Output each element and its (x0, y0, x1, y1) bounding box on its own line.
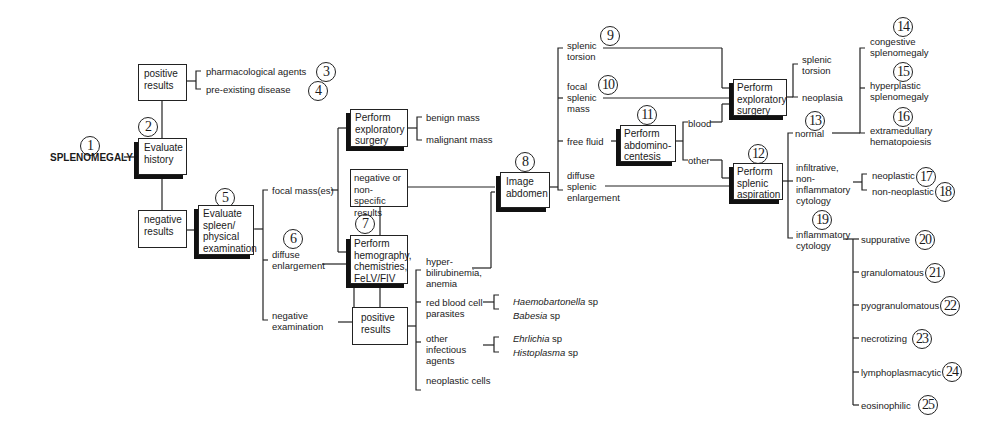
step-number-18: 18 (935, 182, 955, 202)
step-number-23: 23 (912, 329, 932, 349)
hemography-box: Perform hemography, chemistries, FeLV/FI… (350, 235, 408, 284)
extramedullary-hematopoiesis-label: extramedullary hematopoiesis (870, 125, 935, 147)
history-positive-box: positive results (138, 64, 187, 101)
evaluate-spleen-label: Evaluate spleen/ physical examination (203, 208, 257, 254)
step-number-17: 17 (916, 167, 936, 187)
congestive-splenomegaly-label: congestive splenomegaly (870, 36, 930, 58)
history-positive-label: positive results (144, 68, 178, 91)
diffuse-splenic-enlargement-label: diffuse splenic enlargement (567, 170, 607, 203)
evaluate-spleen-box: Evaluate spleen/ physical examination (198, 205, 254, 255)
ehrlichia-sp: sp (552, 333, 562, 344)
hyperplastic-splenomegaly-label: hyperplastic splenomegaly (870, 80, 930, 102)
exploratory-surgery-2-label: Perform exploratory surgery (737, 82, 786, 116)
focal-splenic-mass-label: focal splenic mass (567, 81, 603, 114)
image-abdomen-box: Image abdomen (500, 172, 550, 208)
neoplastic-cells-label: neoplastic cells (426, 375, 490, 386)
start-label-splenomegaly: SPLENOMEGALY (50, 152, 133, 163)
step-number-19: 19 (812, 210, 832, 230)
blood-label: blood (688, 118, 711, 129)
lymphoplasmacytic-label: lymphoplasmacytic (861, 367, 941, 378)
normal-label: normal (795, 128, 824, 139)
other-label: other (688, 155, 710, 166)
image-abdomen-label: Image abdomen (506, 176, 548, 199)
pharmacological-agents-label: pharmacological agents (206, 66, 306, 77)
preexisting-disease-label: pre-existing disease (206, 84, 291, 95)
malignant-mass-label: malignant mass (426, 134, 493, 145)
babesia-label: Babesia sp (513, 310, 560, 321)
neoplasia-label: neoplasia (802, 92, 843, 103)
free-fluid-label: free fluid (567, 136, 603, 147)
history-negative-label: negative results (144, 214, 182, 237)
babesia-genus: Babesia (513, 310, 547, 321)
non-neoplastic-label: non-neoplastic (872, 186, 934, 197)
surgery-splenic-torsion-label: splenic torsion (802, 54, 842, 76)
other-infectious-label: other infectious agents (426, 333, 478, 366)
exploratory-surgery-2-box: Perform exploratory surgery (733, 79, 787, 116)
step-number-20: 20 (915, 230, 935, 250)
exploratory-surgery-1-box: Perform exploratory surgery (350, 109, 408, 147)
splenic-aspiration-label: Perform splenic aspiration (737, 166, 780, 200)
exploratory-surgery-1-label: Perform exploratory surgery (355, 112, 404, 146)
infiltrative-label: infiltrative, non- inflammatory cytology (796, 162, 854, 206)
step-number-15: 15 (893, 62, 913, 82)
step-number-22: 22 (940, 296, 960, 316)
step-number-6: 6 (283, 229, 303, 249)
step-number-11: 11 (637, 105, 657, 125)
suppurative-label: suppurative (861, 234, 910, 245)
babesia-sp: sp (550, 310, 560, 321)
step-number-4: 4 (308, 81, 328, 101)
step-number-21: 21 (925, 263, 945, 283)
abdominocentesis-box: Perform abdomino- centesis (620, 125, 676, 162)
ehrlichia-genus: Ehrlichia (513, 333, 549, 344)
step-number-3: 3 (316, 62, 336, 82)
haemobartonella-label: Haemobartonella sp (513, 296, 598, 307)
focal-masses-label: focal mass(es) (272, 185, 334, 196)
benign-mass-label: benign mass (426, 112, 480, 123)
splenic-torsion-label: splenic torsion (567, 40, 605, 62)
hyperbilirubinemia-label: hyper- bilirubinemia, anemia (426, 256, 476, 289)
eosinophilic-label: eosinophilic (861, 400, 911, 411)
step-number-24: 24 (942, 362, 962, 382)
lab-positive-box: positive results (352, 307, 408, 345)
negative-examination-label: negative examination (272, 310, 334, 332)
step-number-14: 14 (893, 17, 913, 37)
ehrlichia-label: Ehrlichia sp (513, 333, 562, 344)
histoplasma-label: Histoplasma sp (513, 347, 578, 358)
step-number-8: 8 (515, 152, 535, 172)
step-number-25: 25 (918, 395, 938, 415)
splenic-aspiration-box: Perform splenic aspiration (733, 163, 783, 200)
neoplastic-label: neoplastic (872, 170, 915, 181)
step-number-16: 16 (893, 107, 913, 127)
evaluate-history-label: Evaluate history (144, 142, 183, 165)
rbc-parasites-label: red blood cell parasites (426, 297, 486, 319)
inflammatory-label: inflammatory cytology (796, 229, 851, 251)
evaluate-history-box: Evaluate history (138, 138, 187, 175)
step-number-2: 2 (138, 117, 158, 137)
diffuse-enlargement-label: diffuse enlargement (272, 249, 322, 271)
history-negative-box: negative results (138, 210, 187, 248)
histoplasma-genus: Histoplasma (513, 347, 565, 358)
haemobartonella-genus: Haemobartonella (513, 296, 585, 307)
necrotizing-label: necrotizing (861, 333, 907, 344)
hemography-label: Perform hemography, chemistries, FeLV/FI… (354, 238, 412, 284)
abdominocentesis-label: Perform abdomino- centesis (624, 128, 671, 162)
pyogranulomatous-label: pyogranulomatous (861, 300, 939, 311)
negative-nonspecific-box: negative or non-specific results (350, 169, 408, 207)
histoplasma-sp: sp (568, 347, 578, 358)
granulomatous-label: granulomatous (861, 267, 924, 278)
lab-positive-label: positive results (361, 312, 395, 335)
step-number-12: 12 (748, 144, 768, 164)
haemobartonella-sp: sp (588, 296, 598, 307)
